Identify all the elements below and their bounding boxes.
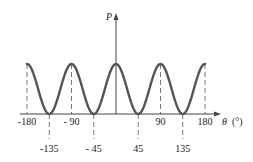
upper-tick-labels: -180- 9090180 xyxy=(18,116,213,127)
x-axis-label-symbol: θ xyxy=(222,116,227,127)
tick-label: 45 xyxy=(133,143,143,154)
tick-label: 180 xyxy=(198,116,213,127)
y-axis-arrow-icon xyxy=(114,13,119,20)
tick-label: - 45 xyxy=(86,143,102,154)
tick-label: -135 xyxy=(40,143,58,154)
x-axis-arrow-icon xyxy=(214,112,221,117)
tick-label: -180 xyxy=(18,116,36,127)
tick-label: - 90 xyxy=(64,116,80,127)
x-axis-label-unit: (°) xyxy=(232,116,243,128)
tick-label: 135 xyxy=(175,143,190,154)
y-axis-label: P xyxy=(105,11,112,22)
lower-tick-labels: -135- 4545135 xyxy=(40,143,190,154)
tick-label: 90 xyxy=(156,116,166,127)
polar-response-plot: P θ (°) -180- 9090180 -135- 4545135 xyxy=(0,0,253,162)
